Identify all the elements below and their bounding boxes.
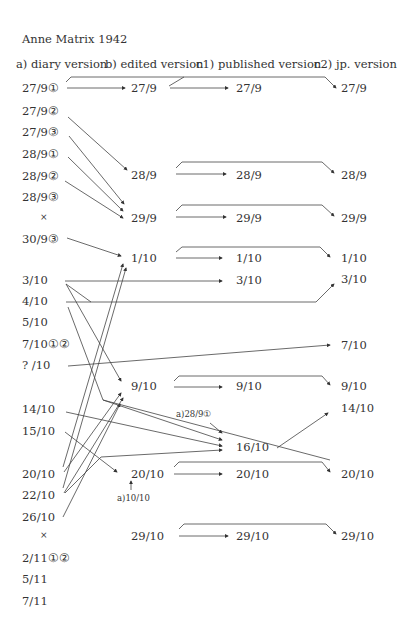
- connection-lines: [0, 0, 396, 636]
